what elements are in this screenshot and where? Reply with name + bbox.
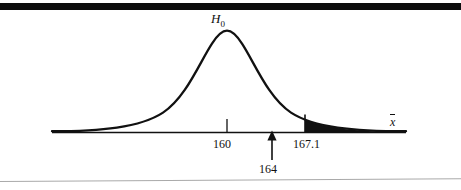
figure-root: H0 160 167.1 164 x xyxy=(0,0,461,190)
rejection-region-shading xyxy=(52,31,406,133)
curve-hypothesis-subscript: 0 xyxy=(220,19,225,29)
rejection-region-fill xyxy=(52,31,406,133)
x-bar-symbol: x xyxy=(390,114,395,128)
observed-value-arrow xyxy=(267,131,276,161)
mean-tick-label: 160 xyxy=(213,138,231,150)
critical-value-label: 167.1 xyxy=(293,138,320,150)
normal-curve xyxy=(52,31,406,132)
curve-hypothesis-letter: H xyxy=(211,11,220,26)
curve-hypothesis-label: H0 xyxy=(211,12,225,29)
x-axis-label: x xyxy=(390,114,395,128)
distribution-plot xyxy=(0,0,461,190)
observed-value-label: 164 xyxy=(259,163,277,175)
